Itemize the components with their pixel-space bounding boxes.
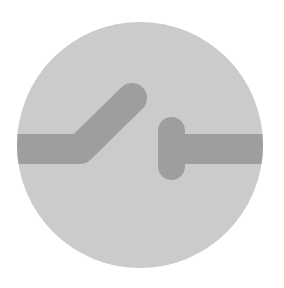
icon-canvas bbox=[0, 0, 284, 288]
open-switch-icon bbox=[0, 0, 284, 288]
right-wire bbox=[172, 134, 284, 164]
switch-contact bbox=[158, 117, 185, 180]
